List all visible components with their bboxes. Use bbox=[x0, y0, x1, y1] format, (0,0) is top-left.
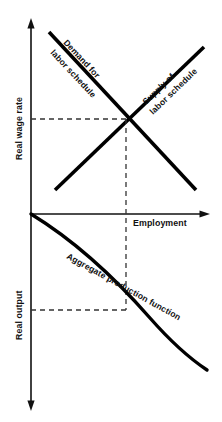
x-axis-label: Employment bbox=[133, 218, 187, 228]
aggregate-production-function-curve bbox=[31, 214, 207, 370]
production-function-label: Aggregate production function bbox=[65, 251, 183, 322]
lower-vertical-axis bbox=[27, 214, 34, 411]
upper-vertical-axis bbox=[27, 18, 34, 214]
lower-y-axis-label: Real output bbox=[14, 291, 24, 340]
upper-y-axis-label: Real wage rate bbox=[14, 97, 24, 160]
horizontal-axis bbox=[31, 210, 210, 217]
economics-diagram: Real wage rate Real output Employment De… bbox=[0, 0, 222, 422]
diagram-canvas: Real wage rate Real output Employment De… bbox=[0, 0, 222, 422]
up-arrow-icon bbox=[27, 18, 34, 29]
down-arrow-icon bbox=[27, 401, 34, 412]
demand-for-labor-line bbox=[49, 32, 196, 190]
right-arrow-icon bbox=[200, 210, 211, 217]
